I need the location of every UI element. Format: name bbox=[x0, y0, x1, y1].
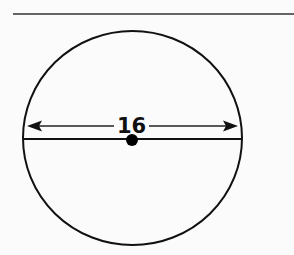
circle-diagram: 16 bbox=[0, 0, 294, 255]
center-point bbox=[126, 134, 138, 146]
